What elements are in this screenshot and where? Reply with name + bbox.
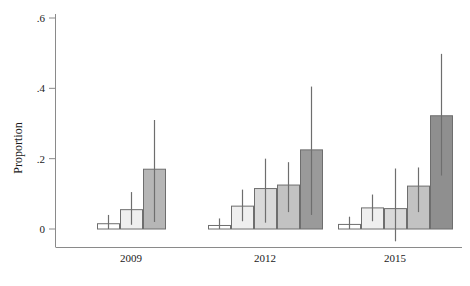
chart-container: 0.2.4.6 Proportion 200920122015 bbox=[0, 0, 470, 286]
y-tick-label: .6 bbox=[37, 12, 46, 24]
proportion-bar-chart: 0.2.4.6 Proportion 200920122015 bbox=[0, 0, 470, 286]
x-category-label: 2015 bbox=[384, 252, 407, 264]
x-category-label-group: 200920122015 bbox=[120, 252, 407, 264]
y-tick-label: .2 bbox=[37, 153, 45, 165]
x-category-label: 2012 bbox=[254, 252, 276, 264]
y-tick-label: 0 bbox=[40, 223, 46, 235]
y-axis-title: Proportion bbox=[11, 122, 25, 173]
x-category-label: 2009 bbox=[120, 252, 143, 264]
x-axis: 200920122015 bbox=[56, 248, 463, 265]
y-tick-group: 0.2.4.6 bbox=[37, 12, 55, 235]
y-axis: 0.2.4.6 Proportion bbox=[11, 12, 56, 247]
y-tick-label: .4 bbox=[37, 82, 46, 94]
bars-layer bbox=[98, 54, 453, 241]
